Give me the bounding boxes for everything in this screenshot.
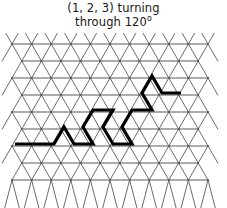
lattice-grid — [2, 33, 218, 208]
figure-container: (1, 2, 3) turning through 120o — [0, 0, 227, 208]
triangular-lattice-diagram — [0, 0, 227, 208]
